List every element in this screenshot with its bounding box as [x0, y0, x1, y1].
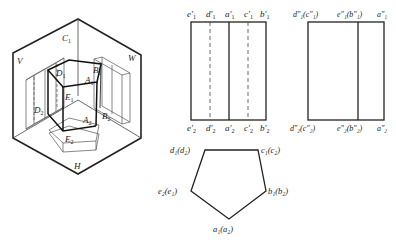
plane-label-h: H [73, 161, 81, 171]
top-label-aa: a₁(a₂) [213, 224, 233, 234]
plane-label-v: V [17, 56, 24, 66]
front-bottom-c: c′2 [244, 123, 253, 134]
side-bottom-a: a″₂ [377, 124, 387, 133]
top-label-cc: c₁(c₂) [261, 145, 280, 155]
front-top-a: a′1 [225, 9, 234, 20]
w-plane-projection [94, 57, 130, 124]
label-d2: D2 [33, 105, 44, 116]
label-a1: A1 [84, 75, 94, 86]
label-b2: B2 [102, 111, 111, 122]
front-top-e: e′1 [187, 9, 196, 20]
label-e1: E1 [64, 92, 74, 103]
front-bottom-e: e′2 [187, 123, 196, 134]
front-bottom-d: d′2 [206, 123, 215, 134]
projection-diagram: V W H C1 B1 D1 A1 E1 D2 B2 A2 E2 e′1 d′1… [0, 0, 396, 242]
front-top-b: b′1 [260, 9, 269, 20]
side-bottom-dc: d″₂(c″₂) [290, 124, 315, 133]
front-bottom-a: a′2 [225, 123, 234, 134]
top-label-ee: e₂(e₁) [158, 186, 177, 196]
top-label-dd: d₁(d₂) [170, 145, 190, 155]
top-view-pentagon [191, 150, 266, 219]
front-view: e′1 d′1 a′1 c′1 b′1 e′2 d′2 a′2 c′2 b′2 [187, 9, 269, 134]
side-top-eb: e″₁(b″₁) [337, 10, 362, 19]
front-top-c: c′1 [244, 9, 253, 20]
isometric-view: V W H C1 B1 D1 A1 E1 D2 B2 A2 E2 [13, 19, 141, 174]
front-bottom-b: b′2 [260, 123, 269, 134]
side-top-dc: d″₁(c″₁) [293, 10, 318, 19]
plane-label-w: W [128, 53, 137, 63]
label-e2: E2 [64, 134, 74, 145]
label-c1: C1 [62, 33, 71, 44]
side-bottom-eb: e″₂(b″₂) [337, 124, 362, 133]
side-top-a: a″₁ [377, 10, 387, 19]
label-a2: A2 [82, 115, 92, 126]
top-view: d₁(d₂) c₁(c₂) e₂(e₁) b₁(b₂) a₁(a₂) [158, 145, 288, 234]
top-label-bb: b₁(b₂) [268, 186, 288, 196]
front-top-d: d′1 [206, 9, 215, 20]
side-view: d″₁(c″₁) e″₁(b″₁) a″₁ d″₂(c″₂) e″₂(b″₂) … [290, 10, 387, 133]
